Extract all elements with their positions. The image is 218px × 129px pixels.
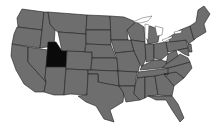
state-north-dakota <box>86 15 111 30</box>
state-wyoming <box>58 32 86 52</box>
state-arizona <box>44 67 66 95</box>
state-new-mexico <box>64 69 88 95</box>
state-indiana <box>145 44 154 62</box>
state-south-dakota <box>86 30 111 45</box>
state-colorado <box>66 51 92 70</box>
state-iowa <box>111 40 134 53</box>
state-new-jersey <box>188 44 192 52</box>
state-kansas <box>91 58 118 71</box>
lake-superior <box>133 16 152 23</box>
state-washington <box>17 9 44 30</box>
state-ohio <box>154 42 168 60</box>
us-map <box>0 0 218 129</box>
states <box>11 6 210 122</box>
state-new-england <box>190 6 210 40</box>
state-arkansas <box>118 71 137 86</box>
state-florida <box>148 96 184 122</box>
